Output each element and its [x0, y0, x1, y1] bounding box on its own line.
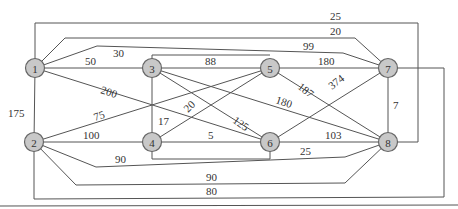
- node-label: 1: [32, 63, 38, 75]
- node-1: 1: [26, 59, 45, 78]
- edge-weight-label: 5: [208, 129, 214, 141]
- node-label: 7: [385, 63, 391, 75]
- edge-weight-label: 180: [318, 55, 335, 67]
- edge-weight-label: 25: [300, 145, 312, 157]
- edge-weight-label: 187: [296, 80, 317, 100]
- edge-weight-label: 90: [206, 171, 218, 183]
- edge-weight-label: 7: [393, 99, 399, 111]
- edge-weight-label: 374: [326, 72, 347, 92]
- edge-weight-label: 75: [92, 108, 107, 123]
- edge-weight-label: 25: [330, 10, 342, 22]
- node-5: 5: [261, 59, 280, 78]
- edge-weight-label: 100: [83, 129, 100, 141]
- edge-weight-label: 20: [330, 25, 342, 37]
- edge-weight-label: 99: [303, 40, 315, 52]
- edge-weight-label: 103: [325, 129, 342, 141]
- node-7: 7: [379, 59, 398, 78]
- node-2: 2: [25, 133, 44, 152]
- edge-weight-label: 30: [113, 47, 125, 59]
- network-graph: 2520309950200175881712518018018737475201…: [0, 0, 458, 209]
- edge-weight-label: 17: [158, 115, 170, 127]
- edge-1-2: [34, 68, 35, 142]
- node-label: 4: [149, 137, 155, 149]
- node-label: 8: [385, 137, 391, 149]
- node-label: 6: [267, 137, 273, 149]
- edge-4-6: [152, 142, 270, 159]
- bottom-divider: [0, 205, 458, 206]
- edge-weight-label: 90: [115, 153, 127, 165]
- edge-weight-label: 80: [206, 185, 218, 197]
- node-6: 6: [261, 133, 280, 152]
- edge-weight-label: 200: [99, 83, 119, 100]
- edge-2-8: [34, 142, 388, 167]
- edge-weight-label: 20: [181, 98, 198, 115]
- node-4: 4: [143, 133, 162, 152]
- edge-weight-label: 50: [85, 55, 97, 67]
- edge-weight-label: 175: [8, 107, 25, 119]
- node-label: 3: [149, 63, 155, 75]
- edge-weight-label: 88: [205, 55, 217, 67]
- node-3: 3: [143, 59, 162, 78]
- node-label: 2: [31, 137, 37, 149]
- node-label: 5: [267, 63, 273, 75]
- node-8: 8: [379, 133, 398, 152]
